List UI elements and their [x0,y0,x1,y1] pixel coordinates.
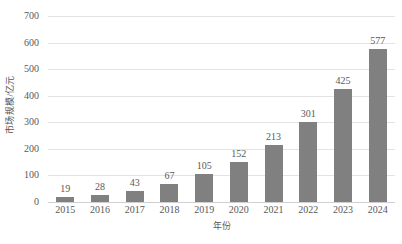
bar-slot: 19 [48,16,83,202]
bar[interactable] [369,49,387,202]
bar-value-label: 301 [301,109,316,119]
bar-value-label: 152 [231,149,246,159]
bar[interactable] [299,122,317,202]
bar-slot: 43 [117,16,152,202]
bar[interactable] [265,145,283,202]
bar-value-label: 28 [95,182,105,192]
bar[interactable] [334,89,352,202]
x-axis-tick-label: 2018 [159,205,179,215]
bar-slot: 301 [291,16,326,202]
bar-value-label: 425 [335,76,350,86]
bar-value-label: 67 [164,171,174,181]
bar-slot: 577 [360,16,395,202]
bar-slot: 213 [256,16,291,202]
bar-value-label: 105 [197,161,212,171]
bar-slot: 152 [222,16,257,202]
bar[interactable] [230,162,248,202]
bar[interactable] [195,174,213,202]
y-axis-tick-label: 300 [24,117,39,127]
y-axis-tick-label: 0 [34,197,39,207]
bar[interactable] [126,191,144,202]
y-axis-tick-label: 400 [24,91,39,101]
bar-chart: 市场规模/亿元 0100200300400500600700 192843671… [0,0,402,244]
x-axis-tick-label: 2017 [125,205,145,215]
x-axis-tick-label: 2024 [368,205,388,215]
bar-value-label: 19 [60,184,70,194]
bar-value-label: 43 [130,178,140,188]
y-axis-tick-label: 700 [24,11,39,21]
y-axis-tick-label: 200 [24,144,39,154]
x-axis-tick-label: 2016 [90,205,110,215]
bar[interactable] [160,184,178,202]
y-axis-tick-labels: 0100200300400500600700 [0,0,44,244]
x-axis-tick-label: 2023 [333,205,353,215]
bar-slot: 425 [326,16,361,202]
x-axis-title: 年份 [48,222,395,231]
axis-baseline [48,202,395,203]
y-axis-tick-label: 600 [24,38,39,48]
x-axis-tick-labels: 2015201620172018201920202021202220232024 [48,205,395,219]
x-axis-tick-label: 2019 [194,205,214,215]
bar-slot: 67 [152,16,187,202]
x-axis-tick-label: 2020 [229,205,249,215]
bar-slot: 105 [187,16,222,202]
bar[interactable] [91,195,109,202]
bar-value-label: 577 [370,36,385,46]
bars-layer: 19284367105152213301425577 [48,16,395,202]
bar-slot: 28 [83,16,118,202]
bar-value-label: 213 [266,132,281,142]
y-axis-tick-label: 500 [24,64,39,74]
x-axis-tick-label: 2021 [264,205,284,215]
x-axis-tick-label: 2022 [298,205,318,215]
x-axis-tick-label: 2015 [55,205,75,215]
y-axis-tick-label: 100 [24,170,39,180]
bar[interactable] [56,197,74,202]
